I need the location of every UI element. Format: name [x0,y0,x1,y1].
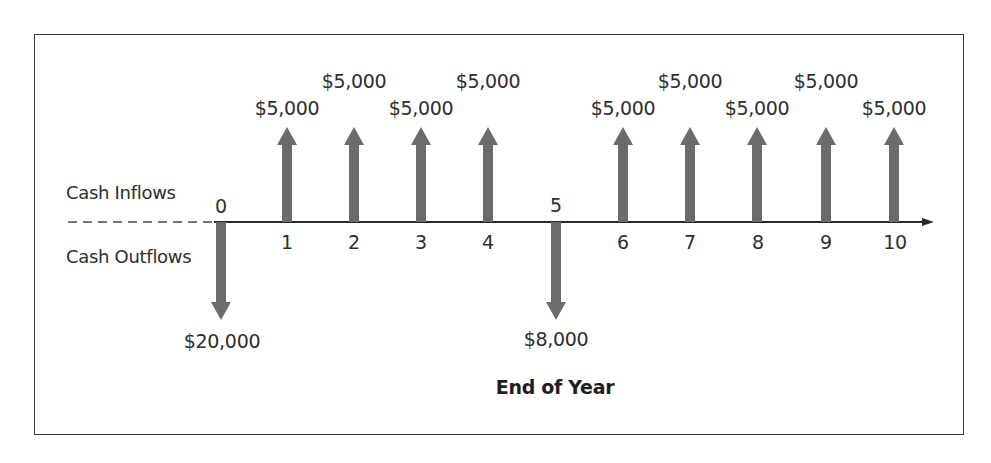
tick-label-2: 2 [348,231,360,253]
cash-inflows-label: Cash Inflows [66,182,176,203]
amount-label-year-9: $5,000 [794,70,859,92]
inflow-arrow-icon [613,127,633,222]
axis-arrowhead-icon [922,218,934,226]
amount-label-year-2: $5,000 [322,70,387,92]
x-axis-title: End of Year [496,376,614,398]
amount-label-year-4: $5,000 [456,70,521,92]
tick-label-4: 4 [482,231,494,253]
tick-label-7: 7 [684,231,696,253]
amount-label-year-10: $5,000 [862,97,927,119]
tick-label-3: 3 [415,231,427,253]
tick-label-9: 9 [820,231,832,253]
inflow-arrow-icon [411,127,431,222]
outflow-arrow-icon [211,222,231,320]
amount-label-year-0: $20,000 [184,330,260,352]
outflow-arrow-icon [546,222,566,320]
inflow-arrow-icon [747,127,767,222]
amount-label-year-5: $8,000 [524,328,589,350]
amount-label-year-7: $5,000 [658,70,723,92]
cash-outflows-label: Cash Outflows [66,246,191,267]
tick-label-5: 5 [550,194,562,216]
tick-label-10: 10 [883,231,907,253]
tick-label-6: 6 [617,231,629,253]
inflow-arrow-icon [816,127,836,222]
inflow-arrow-icon [344,127,364,222]
inflow-arrow-icon [277,127,297,222]
inflow-arrow-icon [478,127,498,222]
amount-label-year-3: $5,000 [389,97,454,119]
inflow-arrow-icon [680,127,700,222]
tick-label-0: 0 [215,195,227,217]
inflow-arrow-icon [884,127,904,222]
amount-label-year-6: $5,000 [591,97,656,119]
amount-label-year-1: $5,000 [255,97,320,119]
tick-label-8: 8 [752,231,764,253]
amount-label-year-8: $5,000 [725,97,790,119]
tick-label-1: 1 [281,231,293,253]
